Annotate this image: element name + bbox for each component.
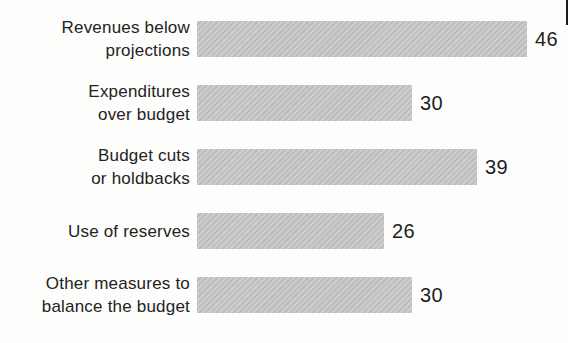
- bar-track: 26: [190, 199, 568, 263]
- bar-track: 30: [190, 263, 568, 327]
- category-label-line: Budget cuts: [0, 144, 190, 167]
- value-label: 46: [535, 28, 558, 51]
- category-label-line: balance the budget: [0, 295, 190, 318]
- value-label: 30: [420, 284, 443, 307]
- bar-row: Use of reserves26: [0, 199, 568, 263]
- category-label: Budget cutsor holdbacks: [0, 144, 190, 190]
- value-label: 39: [485, 156, 508, 179]
- value-label: 30: [420, 92, 443, 115]
- bar-track: 39: [190, 135, 568, 199]
- category-label-line: over budget: [0, 103, 190, 126]
- category-label: Expendituresover budget: [0, 80, 190, 126]
- chart-plot-area: Revenues belowprojections46Expenditureso…: [0, 0, 568, 327]
- bar: [197, 149, 477, 185]
- category-label-line: or holdbacks: [0, 167, 190, 190]
- bar-row: Revenues belowprojections46: [0, 7, 568, 71]
- bar: [197, 277, 412, 313]
- bar-track: 46: [190, 7, 568, 71]
- bar-chart: Revenues belowprojections46Expenditureso…: [0, 0, 568, 343]
- bar-row: Other measures tobalance the budget30: [0, 263, 568, 327]
- bar-row: Budget cutsor holdbacks39: [0, 135, 568, 199]
- category-label-line: Revenues below: [0, 16, 190, 39]
- category-label: Revenues belowprojections: [0, 16, 190, 62]
- category-label-line: Other measures to: [0, 272, 190, 295]
- bar-track: 30: [190, 71, 568, 135]
- bar: [197, 85, 412, 121]
- category-label-line: projections: [0, 39, 190, 62]
- bar-row: Expendituresover budget30: [0, 71, 568, 135]
- category-label-line: Expenditures: [0, 80, 190, 103]
- category-label: Use of reserves: [0, 220, 190, 243]
- bar: [197, 213, 384, 249]
- category-label: Other measures tobalance the budget: [0, 272, 190, 318]
- category-label-line: Use of reserves: [0, 220, 190, 243]
- value-label: 26: [392, 220, 415, 243]
- bar: [197, 21, 527, 57]
